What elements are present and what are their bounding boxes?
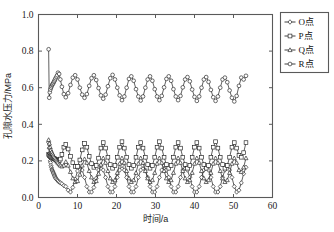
pore-pressure-line-chart: 01020304050600.00.20.40.60.81.0 时间/a孔隙水压… (0, 0, 334, 232)
data-point-circle (195, 99, 199, 103)
data-point-square (76, 165, 80, 169)
data-point-square (136, 145, 140, 149)
data-point-circle (134, 87, 138, 91)
data-point-square (181, 155, 185, 159)
legend-label-Q点: Q点 (299, 45, 315, 55)
data-point-circle (153, 87, 157, 91)
data-point-circle (162, 85, 166, 89)
data-point-square (122, 146, 126, 150)
data-point-square (179, 146, 183, 150)
data-point-square (125, 155, 129, 159)
data-point-circle (60, 85, 64, 89)
data-point-circle (101, 97, 105, 101)
data-point-square (214, 140, 218, 144)
data-point-square (120, 140, 124, 144)
data-point-circle (151, 79, 155, 83)
data-point-square (106, 155, 110, 159)
y-tick-label: 0.2 (22, 156, 34, 166)
data-point-square (218, 155, 222, 159)
data-point-square (78, 158, 82, 162)
data-point-square (127, 163, 131, 167)
data-point-square (144, 155, 148, 159)
data-point-circle (160, 94, 164, 98)
data-point-square (69, 154, 73, 158)
data-point-square (225, 164, 229, 168)
data-point-circle (139, 99, 143, 103)
data-point-circle (85, 92, 89, 96)
data-point-square (113, 164, 117, 168)
data-point-square (90, 162, 94, 166)
data-point-circle (225, 80, 229, 84)
data-point-circle (242, 78, 246, 82)
data-point-square (235, 146, 239, 150)
data-point-square (193, 145, 197, 149)
data-point-square (200, 155, 204, 159)
data-point-square (94, 164, 98, 168)
data-point-circle (172, 87, 176, 91)
data-point-circle (97, 86, 101, 90)
y-tick-label: 0.4 (22, 120, 34, 130)
data-point-circle (58, 78, 62, 82)
data-point-circle (176, 98, 180, 102)
data-point-circle (69, 83, 73, 87)
data-point-square (60, 153, 64, 157)
data-point-circle (169, 79, 173, 83)
data-point-circle (179, 94, 183, 98)
data-point-circle (190, 88, 194, 92)
data-point-circle (167, 75, 171, 79)
data-point-circle (230, 96, 234, 100)
data-point-circle (104, 93, 108, 97)
data-point-square (209, 155, 213, 159)
y-tick-label: 0.0 (22, 193, 34, 203)
data-point-square (288, 34, 292, 38)
data-point-square (155, 145, 159, 149)
data-point-square (158, 140, 162, 144)
data-point-circle (141, 95, 145, 99)
data-point-circle (158, 98, 162, 102)
data-point-circle (106, 84, 110, 88)
data-point-circle (144, 86, 148, 90)
data-point-circle (193, 95, 197, 99)
x-tick-label: 60 (268, 201, 278, 211)
legend-label-R点: R点 (299, 59, 314, 69)
data-point-circle (218, 86, 222, 90)
data-point-square (230, 145, 234, 149)
data-point-circle (125, 86, 129, 90)
data-point-square (64, 143, 68, 147)
data-point-square (66, 147, 70, 151)
data-point-circle (174, 95, 178, 99)
data-point-square (139, 141, 143, 145)
data-point-circle (129, 75, 133, 79)
data-point-square (160, 146, 164, 150)
data-point-circle (209, 88, 213, 92)
data-point-square (165, 163, 169, 167)
data-point-square (195, 141, 199, 145)
data-point-square (99, 146, 103, 150)
chart-figure: 01020304050600.00.20.40.60.81.0 时间/a孔隙水压… (0, 0, 334, 232)
x-axis-title: 时间/a (143, 213, 169, 224)
data-point-circle (132, 79, 136, 83)
data-point-circle (232, 100, 236, 104)
y-tick-label: 0.6 (22, 83, 34, 93)
data-point-square (108, 163, 112, 167)
y-tick-label: 1.0 (22, 10, 34, 20)
data-point-square (239, 155, 243, 159)
x-tick-label: 20 (112, 201, 122, 211)
data-point-circle (235, 94, 239, 98)
data-point-square (207, 164, 211, 168)
data-point-circle (64, 95, 68, 99)
data-point-circle (223, 76, 227, 80)
data-point-circle (118, 94, 122, 98)
data-point-square (232, 141, 236, 145)
data-point-circle (66, 91, 70, 95)
data-point-square (83, 142, 87, 146)
data-point-circle (188, 79, 192, 83)
data-point-circle (78, 86, 82, 90)
data-point-circle (181, 85, 185, 89)
data-point-square (228, 155, 232, 159)
data-point-square (183, 163, 187, 167)
data-point-circle (92, 73, 96, 77)
data-point-circle (122, 95, 126, 99)
data-point-circle (186, 75, 190, 79)
data-point-circle (83, 96, 87, 100)
